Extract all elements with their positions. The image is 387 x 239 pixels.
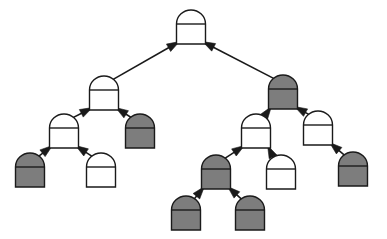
tree-edge bbox=[203, 42, 277, 80]
tree-node-deep-left-leaf[interactable] bbox=[172, 196, 201, 230]
node-body bbox=[339, 152, 368, 186]
diagram-canvas bbox=[0, 0, 387, 239]
node-body bbox=[304, 111, 333, 145]
tree-node-root-right-left-right[interactable] bbox=[267, 155, 296, 189]
tree-node-root-right[interactable] bbox=[269, 75, 298, 109]
tree-node-root-right-left[interactable] bbox=[242, 114, 271, 148]
edge-layer bbox=[37, 42, 347, 201]
tree-node-root-left-left[interactable] bbox=[50, 114, 79, 148]
tree-node-root-left-right[interactable] bbox=[126, 114, 155, 148]
tree-edge bbox=[111, 42, 180, 81]
tree-node-root-left[interactable] bbox=[90, 76, 119, 110]
binary-tree-diagram bbox=[0, 0, 387, 239]
tree-node-root-left-left-left[interactable] bbox=[16, 153, 45, 187]
node-body bbox=[177, 10, 206, 44]
node-body bbox=[202, 155, 231, 189]
node-body bbox=[90, 76, 119, 110]
tree-node-deep-right-leaf[interactable] bbox=[236, 196, 265, 230]
tree-node-root-right-left-left[interactable] bbox=[202, 155, 231, 189]
tree-node-root-left-left-right[interactable] bbox=[87, 153, 116, 187]
node-body bbox=[172, 196, 201, 230]
node-layer bbox=[16, 10, 368, 230]
node-body bbox=[267, 155, 296, 189]
node-body bbox=[16, 153, 45, 187]
node-body bbox=[87, 153, 116, 187]
node-body bbox=[50, 114, 79, 148]
tree-node-root[interactable] bbox=[177, 10, 206, 44]
tree-node-root-right-right-right[interactable] bbox=[339, 152, 368, 186]
node-body bbox=[236, 196, 265, 230]
node-body bbox=[126, 114, 155, 148]
tree-node-root-right-right[interactable] bbox=[304, 111, 333, 145]
node-body bbox=[242, 114, 271, 148]
node-body bbox=[269, 75, 298, 109]
